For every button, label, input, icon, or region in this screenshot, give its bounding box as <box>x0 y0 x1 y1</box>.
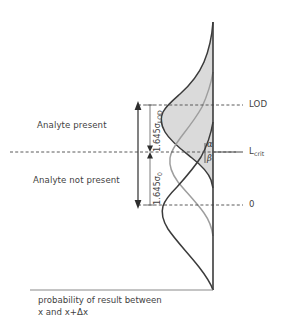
x-axis-caption: probability of result between x and x+Δx <box>38 295 162 318</box>
x-axis-caption-line1: probability of result between <box>38 295 162 307</box>
label-lod: LOD <box>249 99 267 109</box>
analyte-region-arrow <box>135 101 142 209</box>
sigma-zero-prefix: 1.645σ <box>152 176 162 205</box>
beta-label: β <box>207 153 212 163</box>
label-analyte-not-present: Analyte not present <box>33 175 120 185</box>
label-zero: 0 <box>249 199 255 209</box>
label-sigma-lod: 1.645σLOD <box>152 110 162 152</box>
sigma-lod-prefix: 1.645σ <box>152 123 162 152</box>
sigma-lod-sub: LOD <box>156 110 163 123</box>
detection-limit-diagram <box>0 0 283 322</box>
label-sigma-zero: 1.645σ0 <box>152 172 162 205</box>
label-analyte-present: Analyte present <box>37 120 107 130</box>
alpha-label: α <box>207 139 213 149</box>
x-axis-caption-line2: x and x+Δx <box>38 307 162 319</box>
label-lcrit-sub: crit <box>254 150 265 157</box>
sigma-zero-sub: 0 <box>156 172 163 176</box>
label-lcrit: Lcrit <box>249 146 264 156</box>
